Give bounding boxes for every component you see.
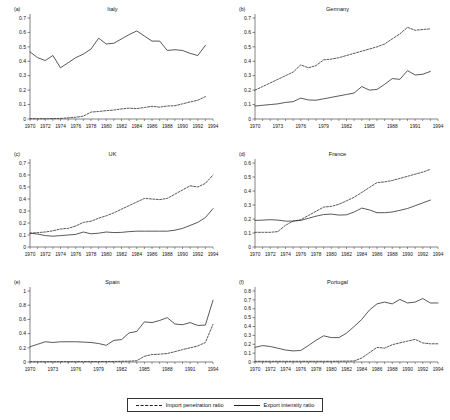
figure-panel-grid: (a) Italy 00.10.20.30.40.50.60.719701972… (0, 0, 450, 420)
svg-text:1976: 1976 (70, 252, 81, 257)
svg-text:1972: 1972 (40, 252, 51, 257)
panel-spain: (e) Spain 00.20.40.60.811970197319761979… (0, 273, 225, 388)
svg-text:1980: 1980 (326, 367, 337, 372)
plot-germany: 00.10.20.30.40.50.60.7197019731976197919… (225, 0, 450, 145)
plot-spain: 00.20.40.60.8119701973197619791982198519… (0, 273, 225, 388)
svg-text:0.1: 0.1 (244, 101, 251, 107)
svg-text:1982: 1982 (341, 252, 352, 257)
plot-uk: 00.10.20.30.40.50.60.7197019721974197619… (0, 145, 225, 273)
svg-text:1988: 1988 (387, 124, 398, 129)
svg-text:0.7: 0.7 (244, 15, 251, 21)
svg-text:0.1: 0.1 (244, 230, 251, 236)
svg-text:0.2: 0.2 (244, 341, 251, 347)
svg-text:1976: 1976 (295, 124, 306, 129)
svg-text:1974: 1974 (280, 252, 291, 257)
legend-box: Import penetration ratio Export intensit… (127, 398, 324, 412)
plot-italy: 00.10.20.30.40.50.60.7197019721974197619… (0, 0, 225, 145)
svg-text:1973: 1973 (48, 367, 59, 372)
svg-text:0.7: 0.7 (19, 160, 26, 166)
svg-text:1976: 1976 (295, 367, 306, 372)
panel-portugal: (f) Portugal 00.10.20.30.40.50.60.70.819… (225, 273, 450, 388)
svg-text:1992: 1992 (192, 124, 203, 129)
svg-text:1984: 1984 (356, 367, 367, 372)
svg-text:0.2: 0.2 (244, 216, 251, 222)
svg-text:1976: 1976 (70, 367, 81, 372)
svg-text:1970: 1970 (25, 252, 36, 257)
svg-text:1992: 1992 (417, 367, 428, 372)
svg-text:1972: 1972 (40, 124, 51, 129)
svg-text:0.5: 0.5 (19, 184, 26, 190)
svg-text:1980: 1980 (326, 252, 337, 257)
legend-label-export: Export intensity ratio (264, 402, 315, 408)
svg-text:1990: 1990 (177, 124, 188, 129)
svg-text:0.6: 0.6 (244, 305, 251, 311)
svg-text:0.3: 0.3 (19, 208, 26, 214)
svg-text:1972: 1972 (265, 367, 276, 372)
solid-line-icon (234, 405, 260, 406)
svg-text:1970: 1970 (25, 124, 36, 129)
svg-text:1992: 1992 (192, 252, 203, 257)
svg-text:0.6: 0.6 (19, 172, 26, 178)
svg-text:0.8: 0.8 (19, 302, 26, 308)
svg-text:0: 0 (248, 244, 251, 250)
svg-text:0.4: 0.4 (19, 58, 26, 64)
panel-italy: (a) Italy 00.10.20.30.40.50.60.719701972… (0, 0, 225, 145)
svg-text:0.3: 0.3 (244, 332, 251, 338)
svg-text:1973: 1973 (273, 124, 284, 129)
svg-text:1978: 1978 (311, 252, 322, 257)
svg-text:1994: 1994 (433, 252, 444, 257)
svg-text:0: 0 (248, 116, 251, 122)
svg-text:1974: 1974 (55, 124, 66, 129)
svg-text:1990: 1990 (402, 367, 413, 372)
svg-text:0.6: 0.6 (19, 29, 26, 35)
svg-text:0.1: 0.1 (19, 101, 26, 107)
svg-text:1986: 1986 (147, 124, 158, 129)
dashed-line-icon (136, 405, 162, 406)
legend: Import penetration ratio Export intensit… (0, 398, 450, 412)
svg-text:1994: 1994 (208, 124, 219, 129)
svg-text:0.7: 0.7 (244, 297, 251, 303)
svg-text:1994: 1994 (208, 367, 219, 372)
svg-text:1980: 1980 (101, 252, 112, 257)
svg-text:1979: 1979 (93, 367, 104, 372)
svg-text:1988: 1988 (162, 252, 173, 257)
svg-text:0.6: 0.6 (19, 316, 26, 322)
svg-text:1978: 1978 (86, 124, 97, 129)
svg-text:1979: 1979 (318, 124, 329, 129)
svg-text:1978: 1978 (311, 367, 322, 372)
svg-text:0: 0 (23, 116, 26, 122)
svg-text:0.4: 0.4 (244, 58, 251, 64)
svg-text:0.3: 0.3 (244, 202, 251, 208)
svg-text:0.2: 0.2 (19, 220, 26, 226)
panel-germany: (b) Germany 00.10.20.30.40.50.60.7197019… (225, 0, 450, 145)
svg-text:1970: 1970 (250, 124, 261, 129)
svg-text:1970: 1970 (25, 367, 36, 372)
svg-text:0.2: 0.2 (19, 345, 26, 351)
svg-text:1990: 1990 (177, 252, 188, 257)
svg-text:1976: 1976 (295, 252, 306, 257)
svg-text:0.4: 0.4 (244, 188, 251, 194)
svg-text:1994: 1994 (208, 252, 219, 257)
svg-text:1985: 1985 (139, 367, 150, 372)
svg-text:0: 0 (248, 359, 251, 365)
svg-text:1974: 1974 (280, 367, 291, 372)
svg-text:1982: 1982 (341, 367, 352, 372)
svg-text:1984: 1984 (131, 124, 142, 129)
panel-france: (d) France 00.10.20.30.40.50.61970197219… (225, 145, 450, 273)
svg-text:0.6: 0.6 (244, 160, 251, 166)
svg-text:1988: 1988 (387, 252, 398, 257)
svg-text:0.7: 0.7 (19, 15, 26, 21)
svg-text:0.3: 0.3 (19, 72, 26, 78)
svg-text:1994: 1994 (433, 124, 444, 129)
svg-text:0.8: 0.8 (244, 288, 251, 294)
panels-container: (a) Italy 00.10.20.30.40.50.60.719701972… (0, 0, 450, 388)
plot-france: 00.10.20.30.40.50.6197019721974197619781… (225, 145, 450, 273)
svg-text:0: 0 (23, 359, 26, 365)
svg-text:1988: 1988 (162, 124, 173, 129)
svg-text:1991: 1991 (410, 124, 421, 129)
panel-uk: (c) UK 00.10.20.30.40.50.60.719701972197… (0, 145, 225, 273)
svg-text:0.4: 0.4 (19, 330, 26, 336)
svg-text:0.2: 0.2 (244, 87, 251, 93)
svg-text:1978: 1978 (86, 252, 97, 257)
svg-text:1988: 1988 (162, 367, 173, 372)
